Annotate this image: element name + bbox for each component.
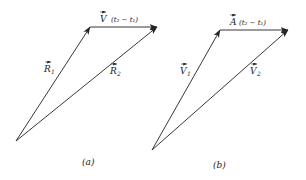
label-subscript: 1	[51, 68, 55, 75]
vector-r1	[16, 27, 90, 141]
vector-r2	[16, 27, 157, 141]
label-symbol: V	[100, 14, 108, 24]
vector-v1	[152, 30, 220, 150]
label-subscript: 2	[116, 70, 121, 77]
label-a-delta-t: A (t₂ − t₁)	[229, 15, 266, 27]
label-expression: (t₂ − t₁)	[239, 19, 266, 27]
label-v2: V 2	[250, 64, 261, 77]
label-symbol: R	[109, 66, 117, 76]
label-v-delta-t: V (t₂ − t₁)	[100, 12, 138, 24]
vector-diagram: V (t₂ − t₁) R 1 R 2 (a) A (t₂ − t₁)	[0, 0, 306, 180]
label-r1: R 1	[43, 62, 55, 75]
panel-a: V (t₂ − t₁) R 1 R 2 (a)	[16, 12, 157, 167]
vector-v2	[152, 30, 288, 150]
label-r2: R 2	[109, 64, 121, 77]
label-expression: (t₂ − t₁)	[111, 16, 138, 24]
label-symbol: A	[229, 17, 237, 27]
label-symbol: R	[43, 64, 51, 74]
caption-b: (b)	[213, 160, 226, 170]
caption-a: (a)	[82, 157, 95, 167]
panel-b: A (t₂ − t₁) V 1 V 2 (b)	[152, 15, 288, 170]
label-subscript: 2	[256, 70, 261, 77]
label-subscript: 1	[187, 70, 191, 77]
label-v1: V 1	[180, 64, 191, 77]
